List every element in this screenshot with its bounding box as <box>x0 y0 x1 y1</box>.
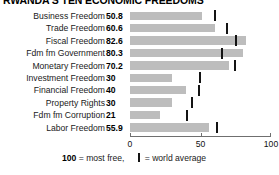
bar <box>130 86 186 94</box>
legend-scale-text: = most free, <box>76 153 124 163</box>
legend-world-average-text: = world average <box>142 153 206 163</box>
bar-row: Fiscal Freedom82.6 <box>0 35 279 47</box>
bar-track <box>130 84 271 96</box>
world-average-marker-icon <box>198 85 200 96</box>
bar-row: Fdm fm Corruption21 <box>0 109 279 121</box>
bar-row: Fdm fm Government80.3 <box>0 47 279 59</box>
world-average-marker-icon <box>234 60 236 71</box>
bar-track <box>130 10 271 22</box>
bar-row-label: Monetary Freedom <box>32 60 105 72</box>
bar <box>130 74 172 82</box>
world-average-marker-icon <box>199 72 201 83</box>
bar-row-label: Property Rights <box>46 97 105 109</box>
axis-tick <box>201 133 202 137</box>
bar-row-label: Fiscal Freedom <box>46 35 105 47</box>
bar-row-label: Trade Freedom <box>46 22 105 34</box>
bar-track <box>130 60 271 72</box>
bar-row: Financial Freedom40 <box>0 84 279 96</box>
axis-tick <box>130 133 131 137</box>
bar-row-label: Business Freedom <box>33 10 105 22</box>
axis-tick <box>270 133 271 137</box>
world-average-marker-icon <box>191 97 193 108</box>
bar-row-value: 30 <box>106 72 116 84</box>
bar-track <box>130 97 271 109</box>
world-average-marker-icon <box>138 153 140 162</box>
bar-track <box>130 22 271 34</box>
bar-row: Investment Freedom30 <box>0 72 279 84</box>
bar-row: Labor Freedom55.9 <box>0 122 279 134</box>
bar-row-value: 55.9 <box>106 122 123 134</box>
world-average-marker-icon <box>235 35 237 46</box>
bar-chart-rows: Business Freedom50.8Trade Freedom60.6Fis… <box>0 10 279 134</box>
bar-row-label: Fdm fm Corruption <box>33 109 105 121</box>
bar-row-value: 21 <box>106 109 116 121</box>
bar-row: Business Freedom50.8 <box>0 10 279 22</box>
bar-track <box>130 35 271 47</box>
world-average-marker-icon <box>214 10 216 21</box>
bar <box>130 111 160 119</box>
bar-row-value: 60.6 <box>106 22 123 34</box>
bar <box>130 24 215 32</box>
bar <box>130 61 229 69</box>
bar-row: Trade Freedom60.6 <box>0 22 279 34</box>
world-average-marker-icon <box>216 122 218 133</box>
world-average-marker-icon <box>186 110 188 121</box>
bar <box>130 36 246 44</box>
bar-row: Monetary Freedom70.2 <box>0 60 279 72</box>
bar-row-label: Investment Freedom <box>26 72 105 84</box>
bar <box>130 49 243 57</box>
bar-row-label: Financial Freedom <box>34 84 105 96</box>
bar-track <box>130 72 271 84</box>
world-average-marker-icon <box>226 23 228 34</box>
bar-row-value: 40 <box>106 84 116 96</box>
axis-tick-label: 100 <box>264 139 278 149</box>
bar-row-value: 80.3 <box>106 47 123 59</box>
bar-row: Property Rights30 <box>0 97 279 109</box>
bar-row-value: 50.8 <box>106 10 123 22</box>
bar-track <box>130 109 271 121</box>
axis-tick-label: 50 <box>196 139 206 149</box>
bar-row-value: 82.6 <box>106 35 123 47</box>
bar-row-value: 70.2 <box>106 60 123 72</box>
bar-track <box>130 47 271 59</box>
bar <box>130 123 209 131</box>
axis-tick-label: 0 <box>128 139 133 149</box>
legend-scale-value: 100 <box>62 153 76 163</box>
bar-row-label: Labor Freedom <box>46 122 105 134</box>
bar-row-value: 30 <box>106 97 116 109</box>
bar <box>130 12 202 20</box>
bar-row-label: Fdm fm Government <box>26 47 105 59</box>
world-average-marker-icon <box>221 48 223 59</box>
x-axis: 050100 <box>130 136 271 137</box>
page-title: RWANDA'S TEN ECONOMIC FREEDOMS <box>3 0 204 6</box>
bar <box>130 98 172 106</box>
chart-legend: 100 = most free, = world average <box>62 152 206 164</box>
